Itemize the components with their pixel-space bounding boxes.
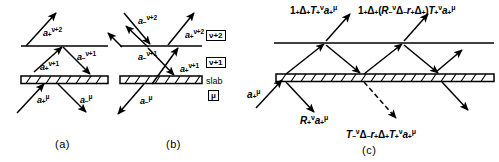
- ray-c-up-2: [364, 44, 402, 74]
- caption-b: (b): [166, 138, 181, 150]
- caption-c: (c): [362, 144, 376, 156]
- ray-c-down-2: [404, 45, 438, 73]
- ray-c-out-2: [404, 14, 428, 41]
- panel-b: a−ν+2 a+ν+2 a−ν+1 a+ν+1 a−μ ν+2 ν+1 slab…: [112, 0, 246, 162]
- formula-c-transmitted: T−νΔ−r+Δ+T+νa+μ: [346, 128, 416, 140]
- layer-label-mu: μ: [208, 90, 219, 101]
- label-b-minus-mu: a−μ: [140, 95, 152, 106]
- ray-c-up-1: [286, 44, 324, 74]
- ray-c-up-3-short: [436, 50, 462, 72]
- label-a-plus-nu2: a+ν+2: [43, 27, 62, 38]
- panel-c: 1+Δ+T+νa+μ 1+Δ+(R−νΔ−r+Δ+)T+νa+μ a+μ R+ν…: [246, 0, 499, 162]
- slab-label: slab: [206, 76, 223, 86]
- label-c-incident: a+μ: [247, 88, 260, 100]
- caption-a: (a): [55, 138, 70, 150]
- label-b-minus-nu2: a−ν+2: [138, 15, 157, 26]
- label-b-plus-nu2: a+ν+2: [185, 29, 204, 40]
- label-b-plus-nu1: a+ν+1: [180, 63, 199, 74]
- ray-c-trans-down-dashed: [364, 82, 396, 118]
- label-a-minus-mu: a−μ: [80, 94, 92, 105]
- figure-root: a+ν+2 a−ν+1 a+ν+1 a+μ a−μ (a): [0, 0, 499, 162]
- layer-label-nu-plus-1: ν+1: [206, 57, 226, 68]
- formula-c-top-left: 1+Δ+T+νa+μ: [290, 4, 337, 16]
- formula-c-top-right: 1+Δ+(R−νΔ−r+Δ+)T+νa+μ: [358, 4, 455, 16]
- formula-c-reflected: R+νa+μ: [300, 114, 328, 126]
- ray-c-down-1: [326, 45, 360, 73]
- layer-label-nu-plus-2: ν+2: [206, 30, 226, 41]
- slab-band-b: [120, 76, 202, 84]
- label-a-plus-nu1: a+ν+1: [40, 61, 59, 72]
- ray-c-refl-down: [286, 82, 314, 112]
- label-a-plus-mu: a+μ: [37, 94, 49, 105]
- ray-c-trans-down-2: [442, 82, 468, 110]
- panel-a: a+ν+2 a−ν+1 a+ν+1 a+μ a−μ (a): [0, 0, 112, 162]
- label-a-minus-nu1: a−ν+1: [77, 51, 96, 62]
- slab-band-c: [276, 74, 494, 82]
- label-b-minus-nu1: a−ν+1: [138, 51, 157, 62]
- slab-band: [21, 76, 108, 84]
- ray-c-out-1: [326, 14, 350, 41]
